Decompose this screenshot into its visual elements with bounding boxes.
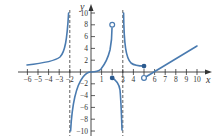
- y-axis-arrow-icon: [89, 4, 94, 11]
- x-tick-label: 1: [100, 75, 104, 84]
- x-tick-label: −6: [23, 75, 31, 84]
- y-tick-label: 6: [84, 32, 88, 41]
- y-tick-label: −10: [76, 127, 88, 136]
- x-tick-label: 10: [193, 75, 201, 84]
- x-axis-label: x: [205, 74, 211, 85]
- x-tick-label: 7: [163, 75, 167, 84]
- curve-right-of-2: [112, 78, 122, 130]
- y-tick-label: 4: [84, 44, 88, 53]
- y-tick-label: −6: [80, 103, 88, 112]
- open-point-2-8: [110, 22, 115, 27]
- x-tick-label: −4: [45, 75, 53, 84]
- closed-point-2-neg1: [110, 76, 115, 81]
- x-tick-label: 8: [174, 75, 178, 84]
- function-graph: −6 −5 −4 −3 −2 1 3 4 6 7 8 9 10 x 10 8 6…: [0, 0, 223, 139]
- y-axis-label: y: [79, 1, 85, 12]
- curve-right-of-3: [124, 13, 144, 66]
- curve-left-branch: [27, 13, 69, 65]
- closed-point-5-1: [142, 64, 147, 69]
- x-tick-label: 4: [132, 75, 136, 84]
- y-tick-label: −4: [80, 91, 88, 100]
- asymptotes: [70, 10, 123, 136]
- x-tick-label: −3: [55, 75, 63, 84]
- x-tick-label: −5: [34, 75, 42, 84]
- y-tick-label: 2: [84, 56, 88, 65]
- open-point-5-neg1: [142, 76, 147, 81]
- x-tick-label: 6: [153, 75, 157, 84]
- y-tick-label: −8: [80, 115, 88, 124]
- x-tick-label: 9: [185, 75, 189, 84]
- y-tick-label: 8: [84, 20, 88, 29]
- ray-from-5: [144, 46, 197, 78]
